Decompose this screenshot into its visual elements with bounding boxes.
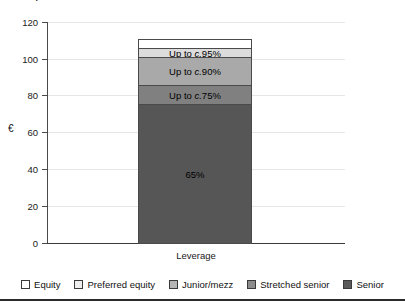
chart-figure: Capital structure 120 100 80 60 40 20 0 …: [0, 0, 405, 307]
y-tick-mark-120: [42, 22, 47, 23]
legend-swatch-preferred-equity: [74, 280, 83, 289]
bar-segment-stretched-senior[interactable]: Up to c.75%: [138, 85, 252, 105]
bar-label-junior-mezz: Up to c.90%: [169, 66, 221, 77]
legend-swatch-senior: [343, 280, 352, 289]
legend-swatch-equity: [21, 280, 30, 289]
bar-segment-senior[interactable]: 65%: [138, 104, 252, 244]
legend-swatch-stretched-senior: [247, 280, 256, 289]
y-tick-mark-40: [42, 169, 47, 170]
y-tick-label-80: 80: [0, 91, 38, 100]
y-tick-mark-0: [42, 243, 47, 244]
legend-swatch-junior-mezz: [169, 280, 178, 289]
y-tick-mark-100: [42, 59, 47, 60]
y-tick-mark-80: [42, 95, 47, 96]
chart-title: Capital structure: [24, 0, 96, 1]
y-tick-label-100: 100: [0, 55, 38, 64]
legend-item-stretched-senior[interactable]: Stretched senior: [247, 279, 329, 290]
legend-label-stretched-senior: Stretched senior: [260, 279, 329, 290]
footer-divider: [0, 299, 405, 301]
stacked-bar-leverage[interactable]: Up to c.95% Up to c.90% Up to c.75% 65%: [138, 39, 252, 243]
legend-item-preferred-equity[interactable]: Preferred equity: [74, 279, 155, 290]
y-tick-mark-20: [42, 206, 47, 207]
y-tick-label-0: 0: [0, 239, 38, 248]
legend-label-senior: Senior: [356, 279, 383, 290]
bar-label-stretched-senior: Up to c.75%: [169, 90, 221, 101]
legend-label-junior-mezz: Junior/mezz: [182, 279, 233, 290]
x-axis-title: Leverage: [47, 250, 345, 261]
y-tick-label-60: 60: [0, 128, 38, 137]
y-axis-line: [47, 22, 48, 244]
legend-label-equity: Equity: [34, 279, 60, 290]
y-tick-label-120: 120: [0, 18, 38, 27]
y-tick-label-20: 20: [0, 202, 38, 211]
bar-segment-junior-mezz[interactable]: Up to c.90%: [138, 57, 252, 86]
y-tick-label-40: 40: [0, 165, 38, 174]
chart-legend: Equity Preferred equity Junior/mezz Stre…: [0, 275, 405, 293]
legend-label-preferred-equity: Preferred equity: [87, 279, 155, 290]
gridline-120: [47, 22, 345, 23]
y-axis-title: €: [8, 124, 14, 134]
legend-item-equity[interactable]: Equity: [21, 279, 60, 290]
y-tick-mark-60: [42, 132, 47, 133]
bar-label-senior: 65%: [185, 169, 204, 180]
legend-item-junior-mezz[interactable]: Junior/mezz: [169, 279, 233, 290]
legend-item-senior[interactable]: Senior: [343, 279, 383, 290]
